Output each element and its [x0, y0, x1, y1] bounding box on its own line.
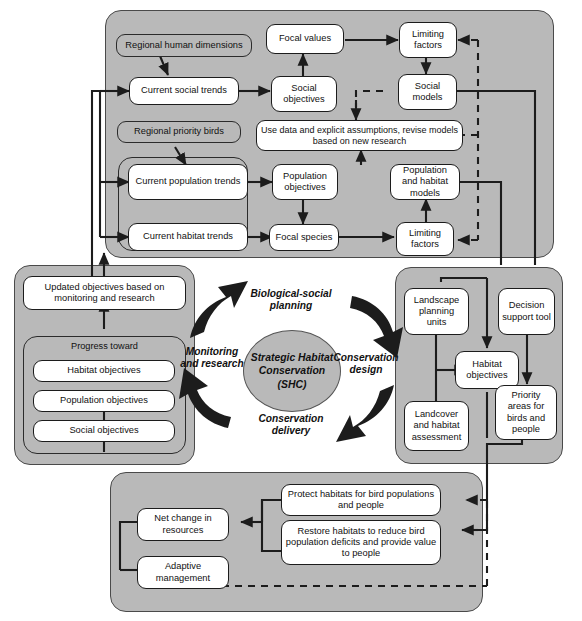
- node-population-objectives: Population objectives: [272, 164, 338, 200]
- node-adaptive-management: Adaptive management: [137, 556, 229, 589]
- node-current-population-trends: Current population trends: [128, 164, 248, 200]
- node-regional-priority-birds: Regional priority birds: [117, 121, 241, 143]
- cycle-label-conservation-delivery: Conservation delivery: [239, 413, 343, 437]
- node-habitat-objectives-right: Habitat objectives: [455, 351, 519, 389]
- cycle-label-biological-social-planning: Biological-social planning: [234, 288, 348, 312]
- node-landscape-planning-units: Landscape planning units: [404, 288, 469, 335]
- node-social-models: Social models: [398, 74, 457, 110]
- node-current-habitat-trends: Current habitat trends: [128, 223, 248, 251]
- cycle-label-conservation-design: Conservation design: [330, 352, 402, 376]
- node-regional-human-dimensions: Regional human dimensions: [116, 34, 252, 57]
- diagram-canvas: Regional human dimensions Current social…: [0, 0, 582, 621]
- node-landcover-assessment: Landcover and habitat assessment: [404, 401, 469, 451]
- node-updated-objectives: Updated objectives based on monitoring a…: [23, 276, 186, 310]
- node-restore-habitats: Restore habitats to reduce bird populati…: [281, 520, 441, 565]
- node-net-change: Net change in resources: [137, 508, 229, 541]
- shc-center-ellipse: Strategic Habitat Conservation (SHC): [243, 330, 341, 412]
- node-decision-support-tool: Decision support tool: [498, 288, 555, 335]
- node-habitat-objectives-left: Habitat objectives: [33, 360, 175, 382]
- node-protect-habitats: Protect habitats for bird populations an…: [281, 484, 441, 516]
- label-progress-toward: Progress toward: [23, 341, 186, 351]
- node-focal-species: Focal species: [269, 224, 339, 251]
- node-population-habitat-models: Population and habitat models: [390, 164, 460, 200]
- node-limiting-factors-bio: Limiting factors: [396, 222, 454, 256]
- node-use-data: Use data and explicit assumptions, revis…: [256, 120, 463, 151]
- node-social-objectives: Social objectives: [271, 76, 337, 112]
- node-population-objectives-left: Population objectives: [33, 390, 175, 412]
- node-limiting-factors-social: Limiting factors: [399, 22, 457, 58]
- node-current-social-trends: Current social trends: [129, 77, 239, 105]
- cycle-label-monitoring-and-research: Monitoring and research: [178, 346, 246, 370]
- node-focal-values: Focal values: [266, 24, 344, 54]
- node-social-objectives-left: Social objectives: [33, 420, 175, 442]
- node-priority-areas: Priority areas for birds and people: [495, 385, 557, 440]
